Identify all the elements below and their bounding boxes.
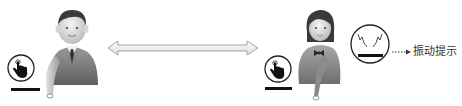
left-touch-bar: [11, 88, 40, 91]
left-touch-icon: [8, 55, 34, 81]
male-user-figure: [46, 10, 98, 98]
vibration-icon: [351, 25, 389, 63]
right-touch-bar: [265, 87, 292, 90]
right-touch-icon: [265, 56, 291, 82]
female-user-figure: [298, 10, 340, 100]
diagram-stage: 振动提示: [0, 0, 462, 106]
bidirectional-arrow-icon: [108, 41, 258, 55]
vibration-prompt-label: 振动提示: [413, 46, 457, 58]
dotted-arrow-icon: [392, 50, 411, 55]
